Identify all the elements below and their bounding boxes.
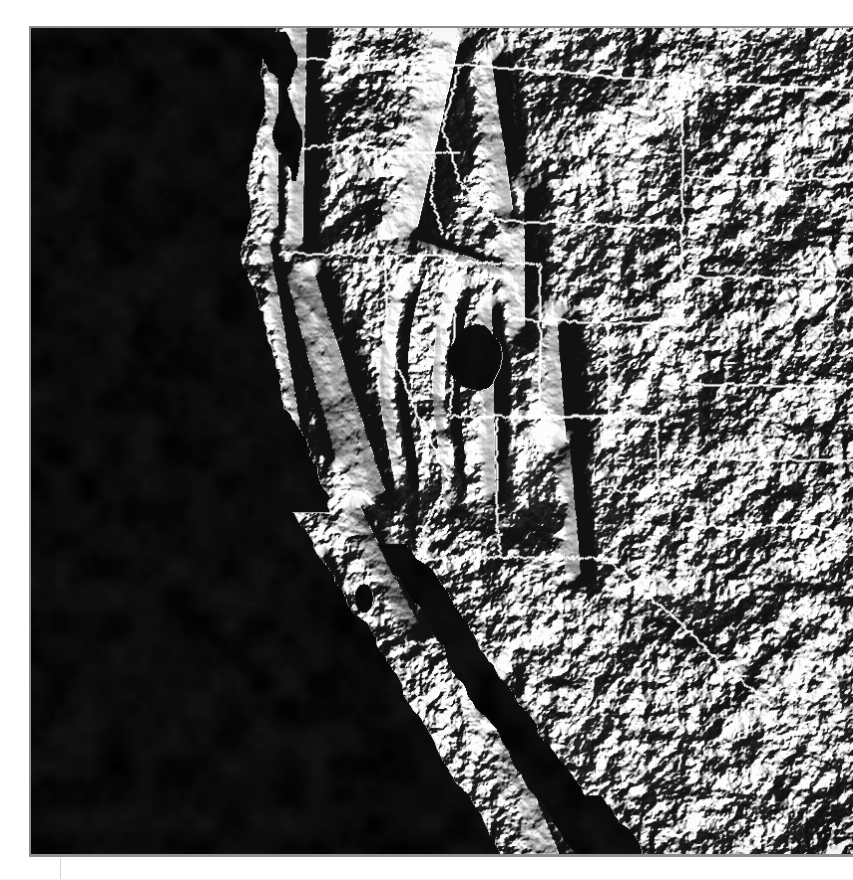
map-figure-frame[interactable] <box>29 26 853 857</box>
document-page: Shaded Relief Map — Western North Americ… <box>0 0 853 880</box>
shaded-relief-map-canvas[interactable] <box>31 28 853 854</box>
column-rule <box>60 858 61 880</box>
